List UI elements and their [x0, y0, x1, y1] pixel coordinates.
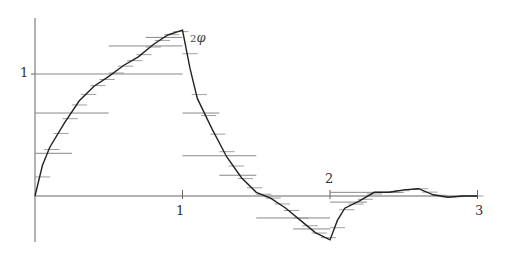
x-tick-label-3: 3: [475, 203, 483, 218]
series-label-symbol: φ: [196, 30, 205, 45]
y-tick-label-1: 1: [20, 65, 28, 80]
x-tick-label-1: 1: [176, 203, 184, 218]
series-label: 2φ: [190, 30, 205, 45]
chart: 1 1 2 3 2φ: [0, 0, 506, 256]
x-tick-label-2: 2: [325, 171, 333, 186]
plot-area: [0, 0, 506, 256]
scaling-function-curve: [35, 30, 478, 240]
